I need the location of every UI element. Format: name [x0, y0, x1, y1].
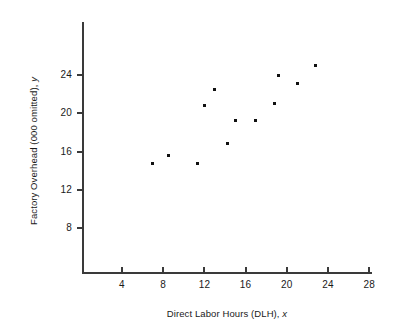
data-point [196, 162, 199, 165]
x-axis-title-text: Direct Labor Hours (DLH), [167, 308, 280, 319]
data-point [167, 154, 170, 157]
data-point [273, 102, 276, 105]
data-point [254, 119, 257, 122]
y-axis-title: Factory Overhead (000 omitted), y [29, 41, 39, 261]
data-point [151, 162, 154, 165]
plot-area [0, 0, 408, 333]
x-axis-title: Direct Labor Hours (DLH), x [82, 308, 372, 319]
data-point [277, 74, 280, 77]
data-point [296, 82, 299, 85]
scatter-plot-figure: 812162024 481216202428 Factory Overhead … [0, 0, 408, 333]
data-point [234, 119, 237, 122]
y-axis-title-text: Factory Overhead (000 omitted), [28, 85, 39, 225]
x-axis-title-variable: x [282, 308, 287, 319]
data-point [226, 142, 229, 145]
y-axis-title-variable: y [28, 77, 39, 82]
data-point [213, 88, 216, 91]
data-point [314, 64, 317, 67]
data-point [203, 104, 206, 107]
